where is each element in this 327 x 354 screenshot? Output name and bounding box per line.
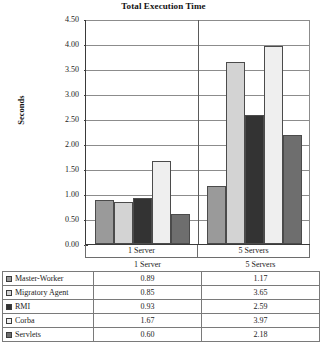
table-cell-value: 0.60 <box>94 328 202 342</box>
legend-series-name: Master-Worker <box>15 274 64 283</box>
table-header-row: 1 Server5 Servers <box>3 258 320 272</box>
y-axis-tick-labels: 4.504.003.503.002.502.001.501.000.500.00 <box>52 13 82 245</box>
y-tick-label: 3.50 <box>65 66 79 74</box>
bar <box>133 198 152 245</box>
y-tick-label: 4.00 <box>65 41 79 49</box>
bar <box>114 202 133 245</box>
legend-entry: RMI <box>3 300 94 314</box>
table-row: Corba1.673.97 <box>3 314 320 328</box>
table-cell-value: 2.59 <box>201 300 319 314</box>
table-cell-value: 2.18 <box>201 328 319 342</box>
y-tick-label: 1.00 <box>65 191 79 199</box>
table-header-series <box>3 258 94 272</box>
legend-entry: Master-Worker <box>3 272 94 286</box>
table-cell-value: 0.93 <box>94 300 202 314</box>
legend-swatch-icon <box>6 290 12 296</box>
x-axis-category-label: 1 Server <box>86 245 197 257</box>
table-cell-value: 0.85 <box>94 286 202 300</box>
table-cell-value: 3.97 <box>201 314 319 328</box>
table-header-category: 5 Servers <box>201 258 319 272</box>
bar <box>152 161 171 245</box>
legend-series-name: Servlets <box>15 330 41 339</box>
y-tick-label: 3.00 <box>65 91 79 99</box>
chart-title: Total Execution Time <box>0 1 327 11</box>
plot-right-edge <box>309 20 310 244</box>
bar <box>245 115 264 245</box>
legend-series-name: Migratory Agent <box>15 288 69 297</box>
table-cell-value: 0.89 <box>94 272 202 286</box>
y-tick-label: 4.50 <box>65 16 79 24</box>
table-row: Master-Worker0.891.17 <box>3 272 320 286</box>
legend-series-name: RMI <box>15 302 30 311</box>
x-axis-category-band: 1 Server5 Servers <box>85 245 310 258</box>
table-row: Servlets0.602.18 <box>3 328 320 342</box>
chart-plot-region: Seconds 4.504.003.503.002.502.001.501.00… <box>0 13 327 258</box>
y-tick-label: 1.50 <box>65 166 79 174</box>
legend-entry: Corba <box>3 314 94 328</box>
y-tick-label: 0.50 <box>65 216 79 224</box>
table-cell-value: 1.17 <box>201 272 319 286</box>
table-row: Migratory Agent0.853.65 <box>3 286 320 300</box>
data-legend-table: 1 Server5 ServersMaster-Worker0.891.17Mi… <box>2 258 320 342</box>
bar <box>264 46 283 245</box>
x-axis-category-label: 5 Servers <box>197 245 309 257</box>
y-tick-label: 2.50 <box>65 116 79 124</box>
legend-swatch-icon <box>6 276 12 282</box>
bar <box>226 62 245 245</box>
table-cell-value: 1.67 <box>94 314 202 328</box>
bar <box>207 186 226 245</box>
legend-swatch-icon <box>6 304 12 310</box>
legend-swatch-icon <box>6 332 12 338</box>
bar <box>95 200 114 245</box>
legend-swatch-icon <box>6 318 12 324</box>
table-cell-value: 3.65 <box>201 286 319 300</box>
legend-series-name: Corba <box>15 316 35 325</box>
table-row: RMI0.932.59 <box>3 300 320 314</box>
category-group-divider <box>198 20 199 244</box>
table-header-category: 1 Server <box>94 258 202 272</box>
y-axis-title: Seconds <box>16 75 26 145</box>
plot-area <box>85 20 310 245</box>
legend-entry: Servlets <box>3 328 94 342</box>
bar <box>171 214 190 244</box>
legend-entry: Migratory Agent <box>3 286 94 300</box>
bar <box>283 135 302 244</box>
y-tick-label: 2.00 <box>65 141 79 149</box>
y-tick-label: 0.00 <box>65 241 79 249</box>
